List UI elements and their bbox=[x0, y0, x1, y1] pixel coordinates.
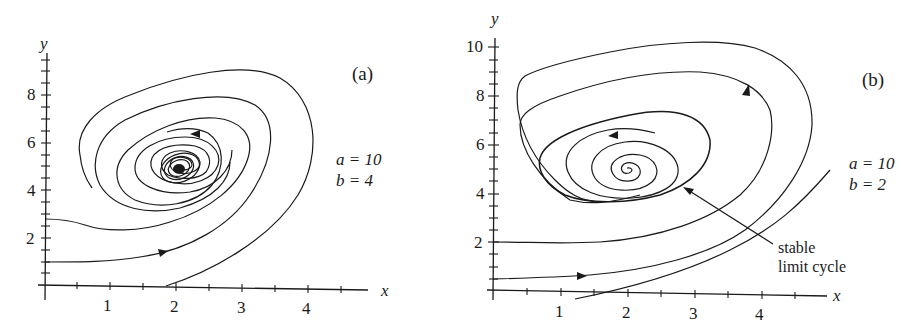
panel-b-x-tick-label: 1 bbox=[555, 303, 564, 320]
panel-b-x-ticks bbox=[527, 288, 795, 299]
trajectory-inner-spiral bbox=[566, 129, 678, 199]
panel-b-x-tick-label: 2 bbox=[622, 304, 631, 321]
direction-arrow-icon bbox=[742, 84, 750, 96]
panel-b-x-tick-label: 4 bbox=[755, 306, 764, 323]
panel-b-param-a: a = 10 bbox=[849, 155, 894, 172]
direction-arrow-icon bbox=[608, 131, 618, 139]
panel-b-x-axis-label: x bbox=[833, 287, 841, 304]
panel-b-x-axis bbox=[487, 290, 827, 296]
panel-b-y-axis-label: y bbox=[491, 10, 499, 27]
annotation-arrowhead-icon bbox=[683, 187, 694, 195]
panel-b-label: (b) bbox=[862, 70, 884, 89]
direction-arrow-icon bbox=[577, 272, 587, 280]
annotation-line-1: stable bbox=[778, 240, 815, 256]
panel-b-y-tick-label: 6 bbox=[476, 136, 485, 153]
panel-b-y-tick-label: 2 bbox=[474, 234, 483, 251]
panel-b-param-b: b = 2 bbox=[849, 176, 886, 193]
annotation-line-2: limit cycle bbox=[778, 259, 846, 275]
panel-b-y-tick-label: 10 bbox=[466, 38, 483, 55]
panel-b-x-tick-label: 3 bbox=[689, 305, 698, 322]
panel-b-y-tick-label: 4 bbox=[476, 185, 485, 202]
panel-b-y-tick-label: 8 bbox=[476, 87, 485, 104]
panel-b-plot bbox=[0, 0, 918, 336]
